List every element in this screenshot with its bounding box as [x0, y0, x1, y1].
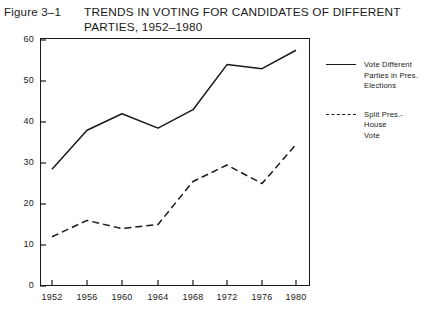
y-tick-10: 10 [12, 239, 34, 249]
legend-label-vote-different-parties: Vote Different Parties in Pres. Election… [364, 60, 422, 92]
figure-title: TRENDS IN VOTING FOR CANDIDATES OF DIFFE… [84, 5, 414, 35]
figure-container: Figure 3–1 TRENDS IN VOTING FOR CANDIDAT… [0, 0, 425, 313]
x-tick-1980: 1980 [279, 292, 313, 302]
legend-entry-split-pres-house-vote: Split Pres.-House Vote [326, 110, 422, 142]
x-tick-1976: 1976 [245, 292, 279, 302]
y-axis-label: Percent [0, 118, 1, 148]
y-tick-50: 50 [12, 75, 34, 85]
legend-label-split-pres-house-vote: Split Pres.-House Vote [364, 110, 422, 142]
x-tick-1972: 1972 [210, 292, 244, 302]
y-tick-40: 40 [12, 116, 34, 126]
legend-line-1: Vote Different [364, 60, 412, 69]
x-tick-1952: 1952 [35, 292, 69, 302]
y-tick-30: 30 [12, 157, 34, 167]
y-tick-20: 20 [12, 198, 34, 208]
x-tick-1964: 1964 [141, 292, 175, 302]
y-tick-0: 0 [12, 280, 34, 290]
legend-line-3: Elections [364, 81, 396, 90]
x-tick-1968: 1968 [176, 292, 210, 302]
chart-legend: Vote Different Parties in Pres. Election… [326, 60, 422, 155]
legend-line-2: Vote [364, 131, 380, 140]
legend-swatch-solid [326, 64, 356, 65]
plot-area [40, 38, 310, 286]
legend-line-1: Split Pres.-House [364, 110, 403, 130]
x-tick-1956: 1956 [70, 292, 104, 302]
legend-entry-vote-different-parties: Vote Different Parties in Pres. Election… [326, 60, 422, 92]
legend-swatch-dashed [326, 114, 356, 115]
figure-title-line-1: TRENDS IN VOTING FOR CANDIDATES OF DIFFE… [84, 5, 401, 19]
legend-line-2: Parties in Pres. [364, 71, 418, 80]
figure-title-line-2: PARTIES, 1952–1980 [84, 20, 414, 35]
x-tick-1960: 1960 [105, 292, 139, 302]
y-tick-60: 60 [12, 34, 34, 44]
figure-number: Figure 3–1 [4, 6, 61, 18]
